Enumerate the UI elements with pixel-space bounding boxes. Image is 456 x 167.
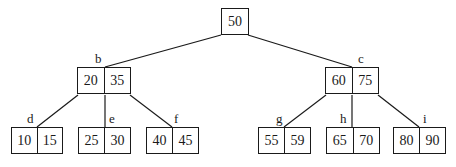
node-c: 60 75 <box>325 67 379 94</box>
edge-c-g <box>284 95 326 127</box>
node-h: 65 70 <box>326 127 380 154</box>
node-i: 80 90 <box>393 127 446 154</box>
node-f: 40 45 <box>146 127 199 154</box>
node-d: 10 15 <box>11 127 63 154</box>
node-label-d: d <box>27 112 34 125</box>
key-cell: 35 <box>104 68 131 93</box>
node-label-c: c <box>358 52 364 65</box>
btree-diagram: 50 b 20 35 c 60 75 d 10 15 e 25 30 f 40 … <box>0 0 456 167</box>
key-cell: 25 <box>79 128 104 153</box>
node-label-f: f <box>174 112 178 125</box>
key-cell: 55 <box>259 128 284 153</box>
node-root: 50 <box>221 8 249 35</box>
key-cell: 45 <box>172 128 198 153</box>
key-cell: 90 <box>419 128 445 153</box>
edge-b-d <box>37 95 78 127</box>
key-cell: 60 <box>326 68 352 93</box>
edge-c-i <box>378 95 419 127</box>
node-label-b: b <box>95 52 102 65</box>
node-label-g: g <box>276 112 283 125</box>
key-cell: 20 <box>78 68 104 93</box>
node-label-h: h <box>340 112 347 125</box>
key-cell: 80 <box>394 128 419 153</box>
key-cell: 40 <box>147 128 172 153</box>
key-cell: 30 <box>104 128 130 153</box>
edge-root-c <box>248 35 352 67</box>
key-cell: 50 <box>222 9 248 34</box>
key-cell: 15 <box>37 128 63 153</box>
key-cell: 65 <box>327 128 353 153</box>
edge-root-b <box>105 35 221 67</box>
node-e: 25 30 <box>78 127 131 154</box>
edge-b-f <box>130 95 172 127</box>
key-cell: 10 <box>12 128 37 153</box>
key-cell: 70 <box>353 128 380 153</box>
node-label-i: i <box>423 112 427 125</box>
node-b: 20 35 <box>77 67 131 94</box>
key-cell: 75 <box>352 68 379 93</box>
key-cell: 59 <box>284 128 310 153</box>
node-label-e: e <box>109 112 115 125</box>
node-g: 55 59 <box>258 127 311 154</box>
